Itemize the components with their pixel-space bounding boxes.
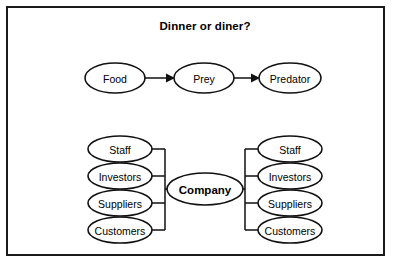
node-prey[interactable]: Prey: [174, 63, 234, 93]
left-stakeholder-stack: Staff Investors Suppliers Customers: [88, 136, 152, 243]
node-predator[interactable]: Predator: [259, 63, 321, 93]
left-node-suppliers[interactable]: Suppliers: [88, 190, 152, 216]
left-node-customers-label: Customers: [95, 225, 146, 237]
food-chain-group: Food Prey Predator: [85, 63, 321, 93]
node-food-label: Food: [103, 73, 127, 85]
node-predator-label: Predator: [270, 73, 311, 85]
left-node-suppliers-label: Suppliers: [98, 198, 142, 210]
right-stakeholder-stack: Staff Investors Suppliers Customers: [258, 136, 322, 243]
diagram-canvas: Dinner or diner? Food Prey: [0, 0, 397, 268]
left-node-investors-label: Investors: [99, 171, 142, 183]
arrow-prey-to-predator: [234, 74, 260, 83]
node-food[interactable]: Food: [85, 63, 145, 93]
right-node-suppliers-label: Suppliers: [268, 198, 312, 210]
node-company-label: Company: [179, 184, 232, 196]
right-node-staff[interactable]: Staff: [258, 136, 322, 162]
diagram-svg: Dinner or diner? Food Prey: [0, 0, 397, 268]
left-node-staff-label: Staff: [109, 144, 130, 156]
left-node-staff[interactable]: Staff: [88, 136, 152, 162]
right-node-customers[interactable]: Customers: [258, 217, 322, 243]
node-company[interactable]: Company: [167, 173, 243, 205]
right-node-investors-label: Investors: [269, 171, 312, 183]
right-node-customers-label: Customers: [265, 225, 316, 237]
right-node-suppliers[interactable]: Suppliers: [258, 190, 322, 216]
left-node-investors[interactable]: Investors: [88, 163, 152, 189]
left-node-customers[interactable]: Customers: [88, 217, 152, 243]
right-node-staff-label: Staff: [279, 144, 300, 156]
right-node-investors[interactable]: Investors: [258, 163, 322, 189]
company-diagram-group: Staff Investors Suppliers Customers: [88, 136, 322, 243]
node-prey-label: Prey: [193, 73, 215, 85]
figure-title: Dinner or diner?: [159, 20, 250, 32]
arrow-food-to-prey: [145, 74, 175, 83]
